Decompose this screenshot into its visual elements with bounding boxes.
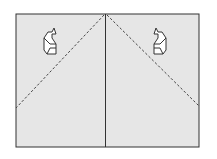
paper-sheet: [16, 14, 199, 147]
fold-diagram: [0, 0, 217, 159]
